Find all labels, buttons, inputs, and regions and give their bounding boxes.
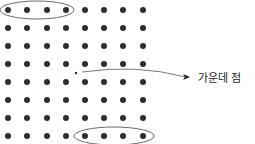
grid-dot bbox=[63, 115, 69, 121]
grid-dot bbox=[44, 7, 50, 13]
grid-dot bbox=[24, 97, 30, 103]
grid-dot bbox=[5, 25, 11, 31]
grid-dot bbox=[120, 79, 126, 85]
grid-dot bbox=[101, 133, 107, 139]
grid-dot bbox=[63, 43, 69, 49]
grid-dot bbox=[24, 115, 30, 121]
grid-dot bbox=[24, 79, 30, 85]
grid-dot bbox=[5, 43, 11, 49]
grid-dot bbox=[82, 115, 88, 121]
grid-dot bbox=[44, 133, 50, 139]
grid-dot bbox=[44, 115, 50, 121]
grid-dot bbox=[101, 61, 107, 67]
grid-dot bbox=[140, 25, 146, 31]
grid-dot bbox=[24, 61, 30, 67]
grid-dot bbox=[140, 61, 146, 67]
grid-dot bbox=[120, 133, 126, 139]
grid-dot bbox=[82, 7, 88, 13]
grid-dot bbox=[101, 97, 107, 103]
grid-dot bbox=[24, 7, 30, 13]
grid-dot bbox=[63, 97, 69, 103]
grid-dot bbox=[120, 97, 126, 103]
grid-dot bbox=[82, 133, 88, 139]
grid-dot bbox=[101, 115, 107, 121]
grid-dot bbox=[140, 79, 146, 85]
grid-dot bbox=[101, 79, 107, 85]
grid-dot bbox=[24, 25, 30, 31]
grid-dot bbox=[63, 25, 69, 31]
grid-dot bbox=[5, 115, 11, 121]
grid-dot bbox=[140, 115, 146, 121]
grid-dot bbox=[82, 43, 88, 49]
grid-dot bbox=[120, 61, 126, 67]
grid-dot bbox=[63, 133, 69, 139]
grid-dot bbox=[101, 25, 107, 31]
grid-dot bbox=[120, 43, 126, 49]
grid-dot bbox=[5, 61, 11, 67]
center-point bbox=[75, 72, 77, 74]
grid-dot bbox=[44, 61, 50, 67]
grid-dot bbox=[44, 79, 50, 85]
grid-dot bbox=[24, 43, 30, 49]
grid-dot bbox=[140, 7, 146, 13]
grid-dot bbox=[140, 97, 146, 103]
grid-dot bbox=[82, 25, 88, 31]
arrow-head-icon bbox=[183, 74, 190, 80]
grid-dot bbox=[140, 133, 146, 139]
center-point-label: 가운데 점 bbox=[198, 69, 242, 85]
grid-dot bbox=[101, 43, 107, 49]
grid-dot bbox=[82, 79, 88, 85]
grid-dot bbox=[140, 43, 146, 49]
grid-dot bbox=[63, 79, 69, 85]
grid-dot bbox=[44, 97, 50, 103]
grid-dot bbox=[5, 7, 11, 13]
grid-dot bbox=[120, 115, 126, 121]
grid-dot bbox=[44, 25, 50, 31]
grid-dot bbox=[63, 61, 69, 67]
grid-dot bbox=[82, 61, 88, 67]
top-row-group-ellipse bbox=[0, 1, 74, 19]
grid-dot bbox=[44, 43, 50, 49]
grid-dot bbox=[63, 7, 69, 13]
grid-dot bbox=[5, 79, 11, 85]
grid-dot bbox=[120, 25, 126, 31]
annotation-arrow bbox=[82, 69, 186, 77]
grid-dot bbox=[5, 97, 11, 103]
grid-dot bbox=[120, 7, 126, 13]
grid-dot bbox=[82, 97, 88, 103]
grid-dot bbox=[101, 7, 107, 13]
grid-dot bbox=[24, 133, 30, 139]
grid-dot bbox=[5, 133, 11, 139]
